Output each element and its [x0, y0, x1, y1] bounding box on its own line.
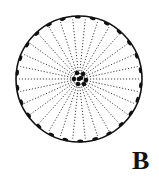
radial-stria	[80, 19, 86, 74]
panel-label: B	[132, 148, 149, 174]
radial-stria	[20, 80, 74, 91]
central-dot	[82, 82, 87, 87]
central-dot	[84, 78, 89, 83]
radial-stria	[73, 84, 79, 139]
central-dot	[81, 72, 86, 77]
radial-stria	[83, 82, 127, 114]
central-dot	[76, 82, 81, 87]
radial-stria	[84, 80, 138, 91]
radial-stria	[60, 84, 77, 136]
radial-stria	[30, 82, 74, 114]
radial-stria	[73, 19, 79, 74]
radial-stria	[60, 22, 77, 74]
radial-stria	[80, 84, 86, 139]
radial-stria	[83, 44, 127, 76]
radial-stria	[30, 44, 74, 76]
central-dot	[77, 77, 82, 82]
radial-stria	[20, 67, 74, 78]
radial-stria	[81, 84, 98, 136]
central-dot	[72, 77, 77, 82]
radial-stria	[84, 67, 138, 78]
diagram-figure: B	[0, 0, 159, 188]
radial-stria	[81, 22, 98, 74]
central-dot	[75, 71, 80, 76]
